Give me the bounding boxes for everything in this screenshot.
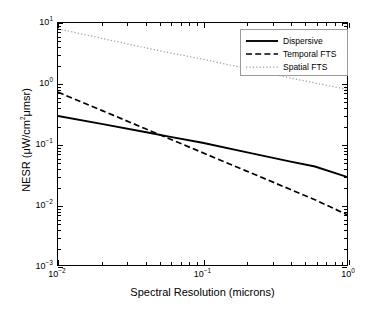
x-tick-top [102, 23, 103, 26]
x-tick-top [335, 23, 336, 26]
legend-item: Spatial FTS [241, 60, 347, 73]
x-tick-top [326, 23, 327, 26]
legend-line-sample [246, 36, 278, 46]
y-tick-right [344, 154, 347, 155]
y-tick [58, 206, 63, 207]
x-tick [181, 262, 182, 265]
y-tick [58, 98, 61, 99]
x-tick-top [189, 23, 190, 26]
x-tick-top [204, 23, 205, 28]
y-tick-right [344, 90, 347, 91]
y-tick [58, 154, 61, 155]
y-tick-right [344, 209, 347, 210]
x-tick-top [146, 23, 147, 26]
x-tick [291, 262, 292, 265]
y-tick [58, 55, 61, 56]
y-tick [58, 47, 61, 48]
x-tick [146, 262, 147, 265]
y-tick [58, 148, 61, 149]
x-tick [102, 262, 103, 265]
y-tick-right [344, 238, 347, 239]
y-tick-right [344, 224, 347, 225]
x-tick [247, 262, 248, 265]
y-tick-right [344, 215, 347, 216]
y-tick-right [344, 169, 347, 170]
y-tick-right [344, 102, 347, 103]
x-tick-top [171, 23, 172, 26]
y-tick-right [344, 220, 347, 221]
y-tick-right [344, 151, 347, 152]
y-tick [58, 159, 61, 160]
y-tick-right [344, 163, 347, 164]
y-tick [58, 26, 61, 27]
x-tick-label: 10−1 [194, 269, 211, 279]
x-tick-top [160, 23, 161, 26]
legend-label: Dispersive [283, 36, 323, 46]
y-tick [58, 102, 61, 103]
y-tick-right [344, 249, 347, 250]
y-tick [58, 23, 63, 24]
x-tick [160, 262, 161, 265]
y-tick [58, 220, 61, 221]
y-tick [58, 249, 61, 250]
legend-item: Temporal FTS [241, 47, 347, 60]
y-tick-right [342, 23, 347, 24]
y-tick-right [342, 84, 347, 85]
x-tick-top [181, 23, 182, 26]
y-tick-right [344, 108, 347, 109]
legend-label: Temporal FTS [283, 49, 336, 59]
y-tick-right [342, 206, 347, 207]
y-tick-label: 10−3 [22, 261, 53, 271]
y-tick-right [342, 145, 347, 146]
y-tick [58, 188, 61, 189]
x-tick [305, 262, 306, 265]
y-tick [58, 169, 61, 170]
y-tick [58, 215, 61, 216]
x-tick [127, 262, 128, 265]
x-tick [326, 262, 327, 265]
x-tick-top [127, 23, 128, 26]
x-tick-label: 100 [341, 269, 355, 279]
y-tick [58, 177, 61, 178]
y-tick-right [342, 267, 347, 268]
y-tick [58, 163, 61, 164]
x-tick [189, 262, 190, 265]
x-tick [349, 260, 350, 265]
chart-figure: 10−210−1100 10−310−210−1100101 Spectral … [0, 0, 374, 316]
series-line-temporal-fts [58, 92, 347, 215]
y-tick [58, 230, 61, 231]
legend-line-sample [246, 62, 278, 72]
y-tick-right [344, 212, 347, 213]
y-tick-right [344, 159, 347, 160]
series-line-dispersive [58, 116, 347, 177]
x-tick [342, 262, 343, 265]
y-tick-right [344, 177, 347, 178]
legend-label: Spatial FTS [283, 62, 327, 72]
y-tick [58, 145, 63, 146]
y-tick [58, 108, 61, 109]
y-tick-right [344, 230, 347, 231]
y-tick-right [344, 26, 347, 27]
x-tick [171, 262, 172, 265]
chart-legend: DispersiveTemporal FTSSpatial FTS [240, 29, 348, 76]
y-tick [58, 90, 61, 91]
y-axis-title: NESR (μW/cm2μmsr) [20, 30, 32, 250]
y-tick-right [344, 98, 347, 99]
x-tick [317, 262, 318, 265]
y-tick-right [344, 93, 347, 94]
legend-line-sample [246, 49, 278, 59]
x-tick-top [317, 23, 318, 26]
y-tick-right [344, 188, 347, 189]
x-tick-top [349, 23, 350, 28]
y-tick [58, 212, 61, 213]
y-tick [58, 151, 61, 152]
x-tick-top [273, 23, 274, 26]
y-tick [58, 84, 63, 85]
y-tick [58, 238, 61, 239]
y-tick-right [344, 148, 347, 149]
y-tick [58, 66, 61, 67]
legend-item: Dispersive [241, 34, 347, 47]
y-tick [58, 209, 61, 210]
y-tick [58, 93, 61, 94]
y-tick-right [344, 116, 347, 117]
